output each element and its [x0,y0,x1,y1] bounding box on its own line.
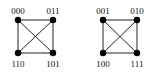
node-label-100: 100 [96,59,110,69]
node-label-001: 001 [96,6,110,16]
graph-left: 000011110101 [11,6,60,69]
node-label-010: 010 [130,6,144,16]
node-label-111: 111 [131,59,144,69]
node-100 [100,50,106,56]
node-label-000: 000 [11,6,25,16]
node-111 [134,50,140,56]
node-101 [50,50,56,56]
node-label-011: 011 [46,6,59,16]
graph-right: 001010100111 [96,6,144,69]
node-011 [50,17,56,23]
node-label-101: 101 [46,59,60,69]
node-010 [134,17,140,23]
node-110 [15,50,21,56]
node-001 [100,17,106,23]
diagram-canvas: 000011110101 001010100111 [0,0,149,76]
node-label-110: 110 [11,59,25,69]
node-000 [15,17,21,23]
